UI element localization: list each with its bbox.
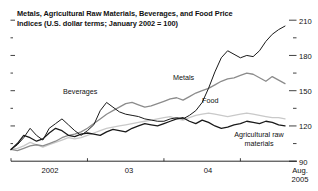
y-axis-label-180: 180: [299, 52, 312, 61]
x-axis-label-04: 04: [188, 166, 228, 175]
series-label-agricultural-raw-materials: Agricultural raw materials: [228, 131, 290, 148]
series-label-beverages: Beverages: [63, 88, 97, 97]
x-axis-end-label-year: 2005: [292, 175, 309, 184]
x-axis-end-label: Aug. 2005: [284, 166, 316, 184]
y-axis-label-210: 210: [299, 17, 312, 26]
x-axis-label-03: 03: [109, 166, 149, 175]
x-axis-label-2002: 2002: [30, 166, 70, 175]
price-indices-chart: Metals, Agricultural Raw Materials, Beve…: [0, 0, 318, 191]
y-axis-label-150: 150: [299, 87, 312, 96]
y-axis-label-120: 120: [299, 122, 312, 131]
plot-area: [0, 0, 318, 191]
series-label-agri-line-2: materials: [244, 139, 273, 148]
x-axis-end-label-month: Aug.: [292, 166, 308, 175]
series-label-food: Food: [202, 97, 218, 106]
series-label-metals: Metals: [173, 74, 194, 83]
